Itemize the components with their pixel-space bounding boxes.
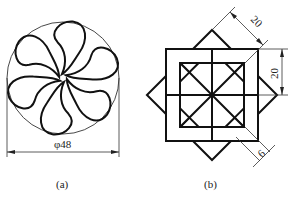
center-point bbox=[210, 93, 214, 97]
drawing-canvas: φ48 20 20 6 bbox=[0, 0, 293, 204]
petal bbox=[58, 79, 114, 123]
dimension-label-vertical: 20 bbox=[268, 68, 280, 80]
petal bbox=[12, 33, 68, 77]
diameter-label: φ48 bbox=[54, 138, 72, 150]
arrow-left bbox=[7, 150, 15, 154]
arrow-right bbox=[111, 150, 119, 154]
dimension-label-diagonal: 20 bbox=[249, 13, 266, 30]
petal bbox=[2, 58, 60, 116]
outer-circle bbox=[7, 22, 119, 134]
caption-b: (b) bbox=[204, 178, 217, 190]
figure-a: φ48 bbox=[2, 18, 124, 157]
caption-a: (a) bbox=[56, 178, 68, 190]
pinwheel-petals bbox=[2, 18, 124, 137]
petal bbox=[66, 40, 124, 98]
figure-b: 20 20 6 bbox=[147, 7, 288, 167]
